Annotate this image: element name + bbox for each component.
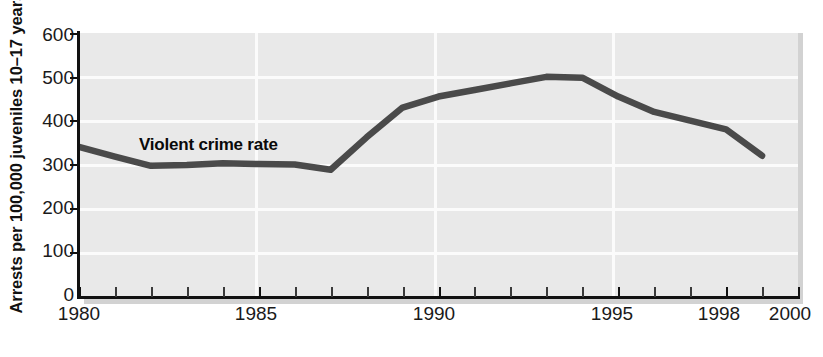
x-tickmark-1995 [618, 287, 620, 298]
y-tick-label-600: 600 [28, 25, 74, 44]
x-tickmark-1993 [546, 287, 548, 297]
x-tickmark-1986 [295, 287, 297, 297]
x-tick-label-2000: 2000 [769, 303, 811, 325]
y-axis-line [77, 31, 80, 298]
x-tick-label-1985: 1985 [235, 303, 277, 325]
violent-crime-rate-chart: Arrests per 100,000 juveniles 10–17 year… [0, 0, 823, 357]
x-tickmark-1994 [582, 287, 584, 297]
x-tickmark-1981 [115, 287, 117, 297]
x-tickmark-1984 [223, 287, 225, 297]
x-tickmark-1982 [151, 287, 153, 297]
x-tickmark-1999 [762, 287, 764, 297]
y-tick-label-500: 500 [28, 68, 74, 87]
x-tickmark-1985 [259, 287, 261, 298]
x-tickmark-2000 [798, 287, 800, 298]
series-annotation-label: Violent crime rate [139, 135, 278, 155]
x-tickmark-1980 [79, 287, 81, 298]
x-tick-label-1995: 1995 [591, 303, 633, 325]
violent-crime-rate-line [79, 33, 798, 296]
x-tickmark-1990 [439, 287, 441, 298]
x-tick-label-1980: 1980 [58, 303, 100, 325]
y-axis-label: Arrests per 100,000 juveniles 10–17 year… [7, 14, 26, 314]
x-tickmark-1997 [690, 287, 692, 297]
x-tickmark-1998 [726, 287, 728, 298]
x-tickmark-1988 [367, 287, 369, 297]
x-tickmark-1987 [331, 287, 333, 297]
y-tick-label-400: 400 [28, 111, 74, 130]
y-tick-label-0: 0 [28, 285, 74, 304]
x-tickmark-1983 [187, 287, 189, 297]
y-tick-label-300: 300 [28, 155, 74, 174]
x-tickmark-1996 [654, 287, 656, 297]
x-tickmark-1991 [474, 287, 476, 297]
x-tick-label-1998: 1998 [698, 303, 740, 325]
x-tick-label-1990: 1990 [413, 303, 455, 325]
x-tickmark-1989 [403, 287, 405, 297]
y-tick-label-200: 200 [28, 198, 74, 217]
plot-shadow-right [798, 33, 803, 301]
x-tickmark-1992 [510, 287, 512, 297]
y-tick-label-100: 100 [28, 241, 74, 260]
